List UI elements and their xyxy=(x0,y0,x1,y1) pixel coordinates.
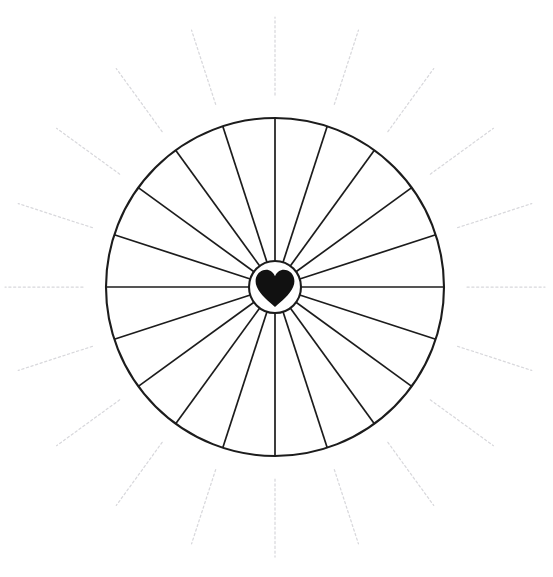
sun-ray xyxy=(430,400,493,446)
sun-ray xyxy=(18,204,92,228)
sun-ray xyxy=(388,69,434,132)
sun-ray xyxy=(18,346,92,370)
sunburst-wheel-illustration xyxy=(0,0,553,577)
artboard xyxy=(0,0,553,577)
sun-ray xyxy=(192,470,216,544)
sun-ray xyxy=(57,128,120,174)
sun-ray xyxy=(116,69,162,132)
sun-ray xyxy=(57,400,120,446)
sun-ray xyxy=(334,470,358,544)
sun-ray xyxy=(458,346,532,370)
sun-ray xyxy=(430,128,493,174)
sun-ray xyxy=(458,204,532,228)
sun-ray xyxy=(116,442,162,505)
sun-ray xyxy=(388,442,434,505)
sun-ray xyxy=(334,30,358,104)
sun-ray xyxy=(192,30,216,104)
